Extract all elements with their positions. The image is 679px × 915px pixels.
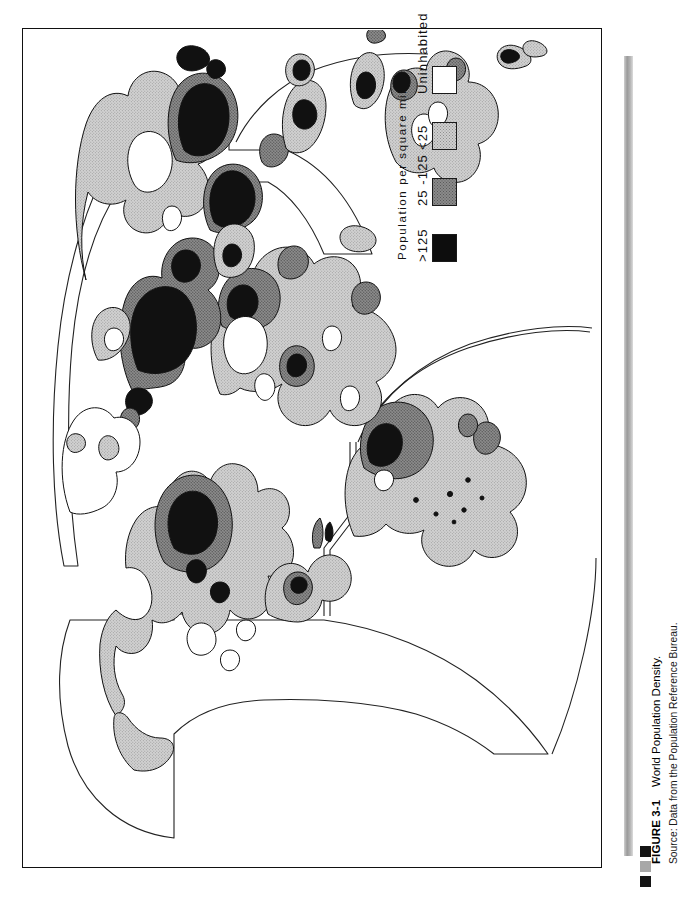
- legend-title: Population per square mile: [396, 38, 408, 260]
- legend-swatch-25to125: [432, 178, 457, 206]
- figure-caption: FIGURE 3-1 World Population Density.: [650, 656, 662, 864]
- caption-area: FIGURE 3-1 World Population Density. Sou…: [598, 28, 678, 868]
- map-legend: Population per square mile >125 25 -125 …: [396, 38, 457, 262]
- figure-label: FIGURE 3-1: [650, 800, 662, 864]
- figure-source: Source: Data from the Population Referen…: [668, 622, 679, 864]
- legend-swatch-uninhabited: [432, 66, 457, 94]
- figure-frame: Population per square mile >125 25 -125 …: [22, 28, 602, 868]
- legend-swatch-lt25: [432, 122, 457, 150]
- legend-label-gt125: >125: [415, 206, 430, 262]
- figure-title: World Population Density.: [650, 656, 662, 787]
- legend-row: >125 25 -125 <25 Uninhabited: [415, 38, 457, 262]
- legend-item-25to125[interactable]: 25 -125: [415, 150, 457, 206]
- world-map: Population per square mile >125 25 -125 …: [24, 30, 600, 866]
- legend-label-uninhabited: Uninhabited: [415, 38, 430, 94]
- world-map-svg: [24, 30, 600, 866]
- legend-swatch-gt125: [432, 234, 457, 262]
- legend-item-gt125[interactable]: >125: [415, 206, 457, 262]
- accent-bar: [624, 56, 633, 856]
- figure-marker-square-3: [640, 876, 651, 887]
- legend-item-lt25[interactable]: <25: [415, 94, 457, 150]
- legend-item-uninhabited[interactable]: Uninhabited: [415, 38, 457, 94]
- legend-label-25to125: 25 -125: [415, 150, 430, 206]
- legend-label-lt25: <25: [415, 94, 430, 150]
